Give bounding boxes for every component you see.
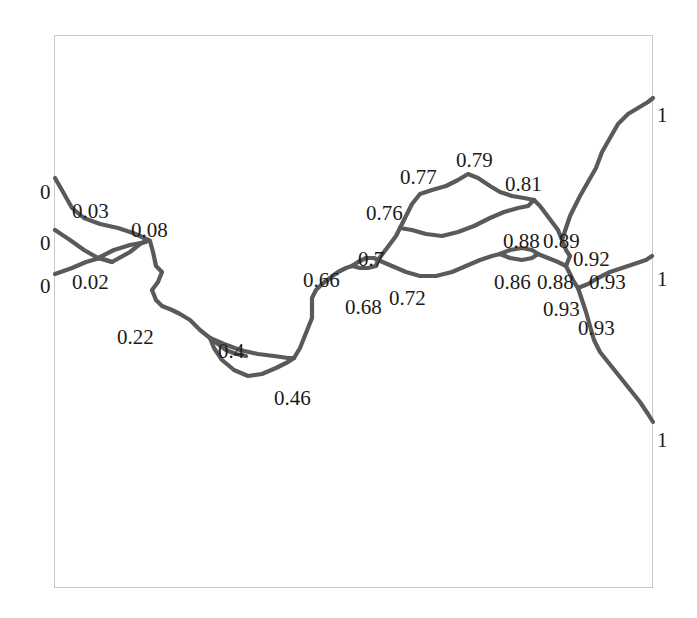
node-value-label: 0.86 bbox=[494, 272, 531, 293]
branch-up-to-top-1 bbox=[562, 98, 653, 240]
node-value-label: 0.08 bbox=[131, 220, 168, 241]
node-value-label: 0.93 bbox=[578, 318, 615, 339]
node-value-label: 1 bbox=[657, 269, 668, 290]
network-figure: 0000.030.020.080.220.40.460.660.680.70.7… bbox=[0, 0, 697, 618]
node-value-label: 0.77 bbox=[400, 167, 437, 188]
node-value-label: 0.03 bbox=[72, 201, 109, 222]
node-value-label: 0.93 bbox=[543, 299, 580, 320]
node-value-label: 0.93 bbox=[589, 272, 626, 293]
node-value-label: 0.68 bbox=[345, 297, 382, 318]
node-value-label: 0.72 bbox=[389, 288, 426, 309]
node-value-label: 0.66 bbox=[303, 270, 340, 291]
lower-0.72-to-0.86 bbox=[378, 254, 500, 276]
node-value-label: 0.02 bbox=[72, 272, 109, 293]
node-value-label: 0.81 bbox=[505, 174, 542, 195]
node-value-label: 0.7 bbox=[358, 249, 384, 270]
node-value-label: 1 bbox=[657, 430, 668, 451]
node-value-label: 0 bbox=[40, 233, 51, 254]
node-value-label: 0.22 bbox=[117, 327, 154, 348]
branch-down-to-bottom-1 bbox=[578, 288, 653, 422]
node-value-label: 0.46 bbox=[274, 388, 311, 409]
node-value-label: 0 bbox=[40, 276, 51, 297]
lens-0.88-lower bbox=[500, 254, 538, 260]
node-value-label: 1 bbox=[657, 105, 668, 126]
node-value-label: 0.92 bbox=[573, 249, 610, 270]
node-value-label: 0.79 bbox=[456, 150, 493, 171]
node-value-label: 0.88 bbox=[503, 231, 540, 252]
node-value-label: 0.4 bbox=[218, 341, 244, 362]
node-value-label: 0.76 bbox=[366, 203, 403, 224]
node-value-label: 0.88 bbox=[537, 272, 574, 293]
node-value-label: 0 bbox=[40, 182, 51, 203]
